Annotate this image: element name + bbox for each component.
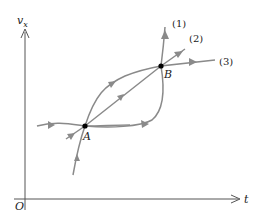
arrowheads (48, 30, 197, 161)
curve-2-label: (2) (189, 33, 203, 44)
velocity-time-diagram: vx t O A B (1) (2) (3) (0, 0, 262, 222)
trajectories (37, 27, 215, 175)
arrow-icon (48, 121, 55, 129)
point-A (82, 123, 87, 128)
point-B-label: B (163, 68, 172, 81)
origin-label: O (15, 200, 24, 213)
arrow-icon (161, 30, 169, 39)
arrow-icon (74, 154, 80, 161)
point-B (158, 63, 163, 68)
curve-2 (85, 49, 185, 126)
curve-3 (85, 60, 215, 127)
axes (14, 29, 240, 210)
point-A-label: A (82, 130, 91, 143)
curve-left-into-A (37, 123, 85, 126)
curve-3-label: (3) (219, 56, 233, 67)
curve-1 (85, 27, 165, 126)
arrow-icon (174, 51, 183, 58)
curve-1-label: (1) (172, 18, 186, 29)
x-axis-label: t (244, 193, 249, 206)
arrow-icon (189, 58, 197, 66)
y-axis-label: vx (17, 14, 28, 29)
arrow-icon (67, 133, 75, 140)
